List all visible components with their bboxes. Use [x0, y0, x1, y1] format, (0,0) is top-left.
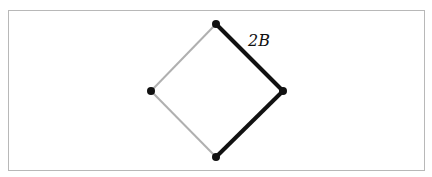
vertex-left	[147, 87, 155, 95]
vertex-top	[212, 20, 220, 28]
vertex-right	[279, 87, 287, 95]
diamond-diagram: 2B	[0, 0, 432, 177]
edge-left-bottom	[151, 91, 216, 157]
edge-right-bottom	[216, 91, 283, 157]
vertex-bottom	[212, 153, 220, 161]
edge-top-left	[151, 24, 216, 91]
edge-label-2b: 2B	[247, 31, 270, 50]
